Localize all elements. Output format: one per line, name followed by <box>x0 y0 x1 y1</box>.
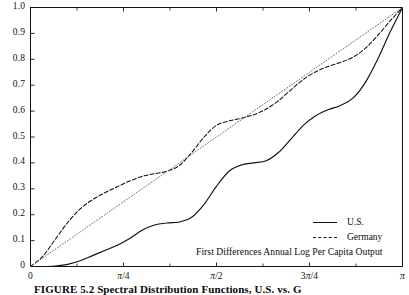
y-axis-ticks <box>31 8 35 267</box>
y-tick-label: 0.8 <box>1 53 25 63</box>
x-tick-label: π/2 <box>197 271 237 281</box>
legend-label-us: U.S. <box>338 217 364 227</box>
y-tick-label: 0.1 <box>1 234 25 244</box>
figure-caption: FIGURE 5.2 Spectral Distribution Functio… <box>34 283 409 295</box>
y-tick-label: 0.3 <box>1 182 25 192</box>
chart-annotation: First Differences Annual Log Per Capita … <box>196 246 383 257</box>
y-tick-label: 0.2 <box>1 208 25 218</box>
legend-label-germany: Germany <box>338 232 382 242</box>
y-tick-label: 1.0 <box>1 1 25 11</box>
y-tick-label: 0.9 <box>1 27 25 37</box>
chart-legend: U.S. Germany <box>312 214 404 244</box>
y-tick-label: 0.6 <box>1 105 25 115</box>
x-tick-label: π/4 <box>104 271 144 281</box>
figure-caption-number: FIGURE 5.2 <box>34 283 94 295</box>
y-tick-label: 0.7 <box>1 79 25 89</box>
y-tick-label: 0 <box>1 260 25 270</box>
x-tick-label: π <box>383 271 409 281</box>
y-tick-label: 0.5 <box>1 131 25 141</box>
dashed-line-swatch-icon <box>312 232 338 242</box>
solid-line-swatch-icon <box>312 217 338 227</box>
y-tick-label: 0.4 <box>1 156 25 166</box>
x-tick-label: 0 <box>11 271 51 281</box>
legend-item-germany: Germany <box>312 229 404 244</box>
legend-item-us: U.S. <box>312 214 404 229</box>
figure-caption-text: Spectral Distribution Functions, U.S. vs… <box>97 283 301 295</box>
x-tick-label: 3π/4 <box>290 271 330 281</box>
